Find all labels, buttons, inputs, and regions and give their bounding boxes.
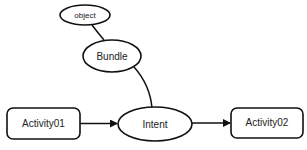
edge-bundle-intent [134, 67, 152, 108]
node-activity02[interactable]: Activity02 [231, 108, 303, 138]
node-activity01-label: Activity01 [22, 118, 65, 129]
diagram-canvas: object Bundle Intent Activity01 Activity… [0, 0, 307, 150]
node-intent[interactable]: Intent [118, 107, 192, 141]
node-bundle[interactable]: Bundle [83, 40, 141, 72]
node-object[interactable]: object [60, 5, 110, 25]
node-object-label: object [74, 11, 96, 20]
node-bundle-label: Bundle [96, 51, 128, 62]
edge-object-bundle [92, 25, 104, 40]
node-intent-label: Intent [142, 119, 167, 130]
node-activity01[interactable]: Activity01 [7, 108, 80, 139]
node-activity02-label: Activity02 [246, 117, 289, 128]
